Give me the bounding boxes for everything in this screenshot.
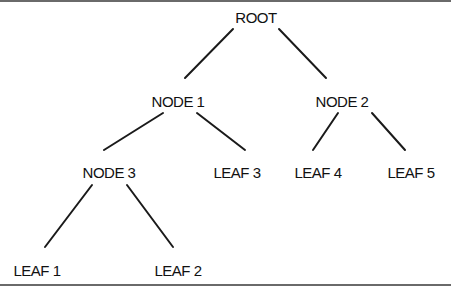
edge-root-node2 xyxy=(279,29,326,78)
leaf-3: LEAF 3 xyxy=(213,165,260,180)
leaf-4: LEAF 4 xyxy=(294,165,341,180)
edge-node2-leaf4 xyxy=(313,113,338,150)
node-root: ROOT xyxy=(235,10,276,25)
leaf-5: LEAF 5 xyxy=(387,165,434,180)
leaf-2: LEAF 2 xyxy=(154,263,201,278)
node-1: NODE 1 xyxy=(152,94,205,109)
leaf-1: LEAF 1 xyxy=(13,263,60,278)
edge-root-node1 xyxy=(185,29,233,78)
edge-node3-leaf2 xyxy=(127,185,173,247)
node-2: NODE 2 xyxy=(316,94,369,109)
edge-node3-leaf1 xyxy=(45,185,92,247)
tree-edges xyxy=(0,0,451,292)
edge-node2-leaf5 xyxy=(372,113,405,150)
edge-node1-leaf3 xyxy=(197,113,245,150)
edge-node1-node3 xyxy=(104,113,163,150)
node-3: NODE 3 xyxy=(83,165,136,180)
